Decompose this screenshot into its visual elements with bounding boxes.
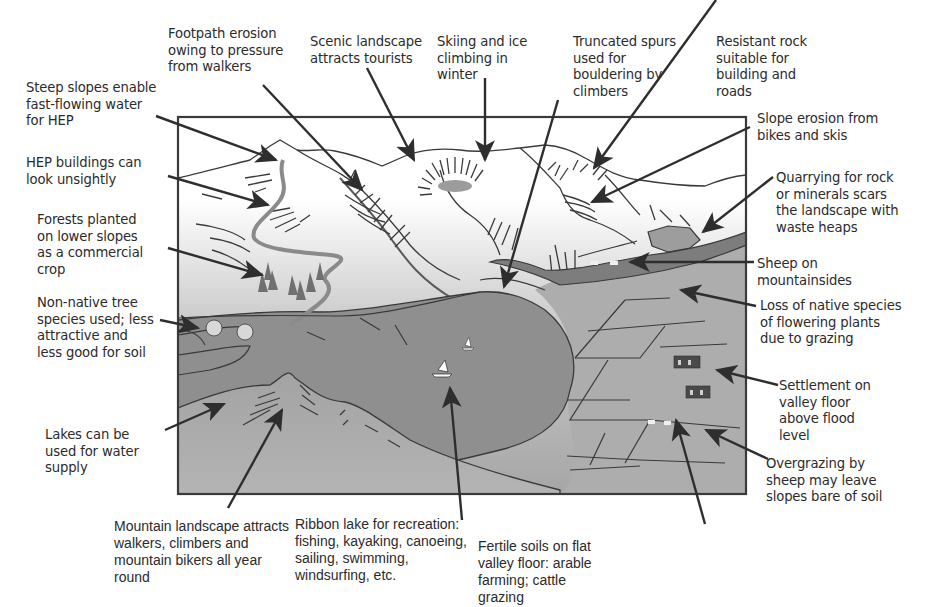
label-resistant-rock: Resistant rock suitable for building and…: [716, 34, 807, 100]
label-quarrying: Quarrying for rock or minerals scars the…: [776, 170, 898, 236]
label-non-native-trees: Non-native tree species used; less attra…: [37, 295, 154, 361]
label-truncated-spurs: Truncated spurs used for bouldering by c…: [573, 34, 676, 100]
label-forests: Forests planted on lower slopes as a com…: [37, 212, 143, 278]
landscape-scene: [178, 117, 746, 494]
label-scenic-landscape: Scenic landscape attracts tourists: [310, 34, 422, 67]
label-fertile-soils: Fertile soils on flat valley floor: arab…: [478, 538, 592, 606]
label-skiing: Skiing and ice climbing in winter: [437, 34, 527, 84]
label-steep-slopes: Steep slopes enable fast-flowing water f…: [26, 80, 156, 130]
label-footpath-erosion: Footpath erosion owing to pressure from …: [168, 26, 283, 76]
label-sheep: Sheep on mountainsides: [757, 256, 852, 289]
label-mountain-landscape: Mountain landscape attracts walkers, cli…: [114, 518, 289, 586]
label-ribbon-lake: Ribbon lake for recreation: fishing, kay…: [295, 516, 467, 584]
label-settlement: Settlement on valley floor above flood l…: [779, 378, 871, 444]
label-overgrazing: Overgrazing by sheep may leave slopes ba…: [766, 456, 882, 506]
label-lakes-water-supply: Lakes can be used for water supply: [45, 427, 139, 477]
label-hep-buildings: HEP buildings can look unsightly: [26, 155, 141, 188]
label-slope-erosion: Slope erosion from bikes and skis: [757, 111, 878, 144]
label-loss-native-species: Loss of native species of flowering plan…: [760, 298, 901, 348]
